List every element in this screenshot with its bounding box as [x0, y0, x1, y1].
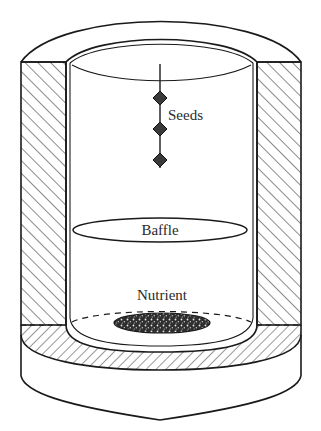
inner-cup-wall: [66, 62, 257, 352]
inner-chamber-top: [72, 65, 251, 81]
germination-chamber-diagram: Seeds Baffle Nutrient: [0, 0, 321, 431]
seeds-label: Seeds: [168, 107, 203, 123]
seed: [153, 153, 167, 167]
nutrient-label: Nutrient: [137, 287, 188, 303]
seeds: [153, 91, 167, 167]
seed: [153, 122, 167, 136]
left-insulation-wall: [21, 62, 66, 325]
nutrient-pad: [114, 313, 210, 333]
right-insulation-wall: [257, 62, 301, 325]
seed: [153, 91, 167, 105]
baffle-label: Baffle: [141, 222, 179, 238]
outer-lid: [21, 22, 301, 64]
